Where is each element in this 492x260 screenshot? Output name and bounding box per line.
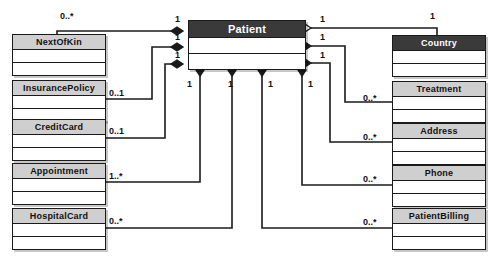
class-box-patient[interactable]: Patient (188, 20, 306, 70)
class-compartment-phone-2 (393, 194, 485, 207)
class-box-phone[interactable]: Phone (392, 165, 486, 207)
multiplicity-label-patient-treatment-patient: 1 (320, 33, 325, 42)
class-name-patient: Patient (189, 21, 305, 38)
class-compartment-creditcard-2 (13, 148, 105, 161)
class-compartment-patientbilling-1 (393, 224, 485, 237)
association-line (302, 76, 392, 185)
multiplicity-label-patient-hospitalcard-other: 0..* (109, 217, 123, 226)
multiplicity-label-patient-nextofkin-patient: 1 (175, 15, 180, 24)
multiplicity-label-patient-address-other: 0..* (363, 133, 377, 142)
multiplicity-label-patient-appointment-other: 1..* (109, 172, 123, 181)
class-compartment-insurancepolicy-1 (13, 96, 105, 109)
class-compartment-hospitalcard-1 (13, 224, 105, 237)
multiplicity-label-patient-insurancepolicy-patient: 1 (175, 33, 180, 42)
class-compartment-appointment-1 (13, 179, 105, 192)
multiplicity-label-patient-patientbilling-other: 0..* (363, 218, 377, 227)
class-box-appointment[interactable]: Appointment (12, 163, 106, 205)
class-box-hospitalcard[interactable]: HospitalCard (12, 208, 106, 250)
class-box-patientbilling[interactable]: PatientBilling (392, 208, 486, 250)
class-compartment-appointment-2 (13, 192, 105, 205)
class-compartment-patient-1 (189, 38, 305, 54)
class-box-nextofkin[interactable]: NextOfKin (12, 34, 106, 76)
class-compartment-treatment-1 (393, 97, 485, 110)
class-box-country[interactable]: Country (392, 35, 486, 77)
association-line (311, 28, 437, 35)
diamond-marker (171, 60, 183, 68)
class-compartment-address-2 (393, 152, 485, 165)
class-name-treatment: Treatment (393, 82, 485, 97)
multiplicity-label-patient-creditcard-patient: 1 (175, 51, 180, 60)
class-name-appointment: Appointment (13, 164, 105, 179)
class-box-creditcard[interactable]: CreditCard (12, 119, 106, 161)
multiplicity-label-patient-country-patient: 1 (320, 15, 325, 24)
multiplicity-label-patient-insurancepolicy-other: 0..1 (109, 89, 124, 98)
multiplicity-label-patient-phone-patient: 1 (308, 80, 313, 89)
class-name-hospitalcard: HospitalCard (13, 209, 105, 224)
multiplicity-label-patient-hospitalcard-patient: 1 (228, 80, 233, 89)
class-name-phone: Phone (393, 166, 485, 181)
class-name-nextofkin: NextOfKin (13, 35, 105, 50)
class-compartment-country-2 (393, 64, 485, 77)
class-compartment-nextofkin-2 (13, 63, 105, 76)
class-compartment-patient-2 (189, 54, 305, 70)
class-box-treatment[interactable]: Treatment (392, 81, 486, 123)
multiplicity-label-patient-creditcard-other: 0..1 (109, 127, 124, 136)
class-compartment-country-1 (393, 51, 485, 64)
class-compartment-patientbilling-2 (393, 237, 485, 250)
class-name-patientbilling: PatientBilling (393, 209, 485, 224)
class-compartment-nextofkin-1 (13, 50, 105, 63)
class-name-country: Country (393, 36, 485, 51)
class-box-insurancepolicy[interactable]: InsurancePolicy (12, 80, 106, 122)
class-name-insurancepolicy: InsurancePolicy (13, 81, 105, 96)
multiplicity-label-patient-patientbilling-patient: 1 (268, 80, 273, 89)
multiplicity-label-patient-nextofkin-other: 0..* (60, 12, 74, 21)
multiplicity-label-patient-country-other: 1 (430, 12, 435, 21)
composition-diamond-icon (171, 60, 183, 68)
multiplicity-label-patient-phone-other: 0..* (363, 175, 377, 184)
class-box-address[interactable]: Address (392, 123, 486, 165)
class-name-creditcard: CreditCard (13, 120, 105, 135)
multiplicity-label-patient-address-patient: 1 (320, 51, 325, 60)
class-name-address: Address (393, 124, 485, 139)
class-compartment-phone-1 (393, 181, 485, 194)
class-compartment-address-1 (393, 139, 485, 152)
uml-class-diagram: PatientNextOfKinInsurancePolicyCreditCar… (0, 0, 492, 260)
class-compartment-hospitalcard-2 (13, 237, 105, 250)
class-compartment-treatment-2 (393, 110, 485, 123)
class-compartment-creditcard-1 (13, 135, 105, 148)
multiplicity-label-patient-appointment-patient: 1 (187, 80, 192, 89)
multiplicity-label-patient-treatment-other: 0..* (363, 94, 377, 103)
